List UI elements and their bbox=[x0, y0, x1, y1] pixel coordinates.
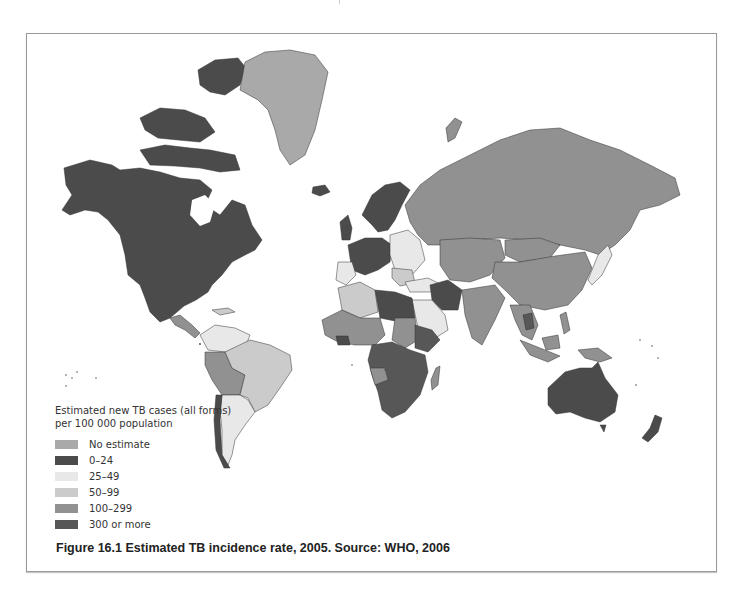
region-southeast-asia bbox=[510, 305, 538, 340]
region-iberia bbox=[336, 262, 356, 285]
region-caribbean bbox=[212, 308, 235, 315]
region-tasmania bbox=[600, 425, 606, 432]
region-canadian-arctic bbox=[198, 58, 246, 95]
region-greenland bbox=[240, 50, 328, 165]
legend-items: No estimate 0–24 25–49 50–99 100–299 300… bbox=[55, 436, 231, 532]
figure-caption: Figure 16.1 Estimated TB incidence rate,… bbox=[56, 541, 450, 555]
region-scandinavia bbox=[362, 182, 410, 232]
region-india bbox=[462, 285, 505, 345]
legend-item-300-or-more: 300 or more bbox=[55, 516, 231, 532]
region-madagascar bbox=[431, 366, 440, 390]
legend-swatch bbox=[55, 440, 78, 449]
region-australia bbox=[548, 362, 618, 422]
legend-swatch bbox=[55, 488, 78, 497]
legend-item-100-299: 100–299 bbox=[55, 500, 231, 516]
region-borneo bbox=[542, 335, 560, 350]
legend-label: 0–24 bbox=[89, 455, 113, 466]
region-western-europe bbox=[348, 238, 392, 275]
region-new-guinea bbox=[578, 348, 612, 362]
region-new-zealand bbox=[642, 415, 662, 442]
region-central-america bbox=[170, 315, 200, 338]
map-legend: Estimated new TB cases (all forms) per 1… bbox=[55, 404, 231, 532]
legend-label: 50–99 bbox=[89, 487, 119, 498]
region-canadian-arctic-3 bbox=[140, 145, 240, 172]
legend-label: No estimate bbox=[89, 439, 150, 450]
region-uk bbox=[340, 215, 352, 240]
legend-title-line2: per 100 000 population bbox=[55, 417, 231, 430]
region-china bbox=[492, 252, 592, 310]
region-ivory-coast bbox=[336, 336, 350, 345]
legend-swatch bbox=[55, 520, 78, 529]
legend-title-line1: Estimated new TB cases (all forms) bbox=[55, 404, 231, 417]
legend-swatch bbox=[55, 472, 78, 481]
legend-item-no-estimate: No estimate bbox=[55, 436, 231, 452]
legend-item-50-99: 50–99 bbox=[55, 484, 231, 500]
legend-label: 25–49 bbox=[89, 471, 119, 482]
region-west-africa bbox=[322, 310, 385, 345]
region-philippines bbox=[560, 312, 570, 334]
region-north-america bbox=[62, 160, 262, 322]
region-novaya-zemlya bbox=[446, 118, 462, 142]
legend-item-0-24: 0–24 bbox=[55, 452, 231, 468]
region-russia bbox=[405, 128, 680, 255]
region-iceland bbox=[312, 185, 330, 196]
region-libya-egypt bbox=[375, 290, 415, 322]
legend-swatch bbox=[55, 456, 78, 465]
legend-label: 300 or more bbox=[89, 519, 151, 530]
legend-label: 100–299 bbox=[89, 503, 132, 514]
legend-swatch bbox=[55, 504, 78, 513]
legend-item-25-49: 25–49 bbox=[55, 468, 231, 484]
region-canadian-arctic-2 bbox=[140, 108, 215, 142]
